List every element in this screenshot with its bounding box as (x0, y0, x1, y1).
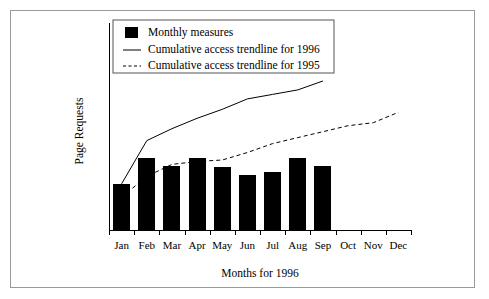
legend-label-trendline-1996: Cumulative access trendline for 1996 (148, 43, 320, 55)
figure-frame: JanFebMarAprMayJunJulAugSepOctNovDec Mon… (10, 10, 475, 288)
x-axis-title: Months for 1996 (221, 267, 299, 279)
bar-jul (264, 172, 281, 230)
x-tick-label-jul: Jul (266, 239, 279, 251)
x-axis-tick-marks (110, 230, 412, 235)
bar-aug (289, 158, 306, 230)
legend-label-trendline-1995: Cumulative access trendline for 1995 (148, 59, 320, 71)
bar-may (214, 167, 231, 230)
bar-jun (239, 175, 256, 230)
x-tick-label-mar: Mar (163, 239, 182, 251)
x-axis-tick-labels: JanFebMarAprMayJunJulAugSepOctNovDec (114, 239, 407, 251)
x-tick-label-feb: Feb (139, 239, 156, 251)
y-axis-title: Page Requests (73, 97, 86, 164)
x-tick-label-jun: Jun (240, 239, 256, 251)
x-tick-label-nov: Nov (364, 239, 383, 251)
x-tick-label-sep: Sep (315, 239, 332, 251)
bar-apr (189, 158, 206, 230)
bar-jan (113, 184, 130, 230)
bar-feb (138, 158, 155, 230)
x-tick-label-jan: Jan (114, 239, 129, 251)
legend-label-monthly-measures: Monthly measures (148, 26, 234, 39)
bar-mar (163, 166, 180, 230)
chart-canvas: JanFebMarAprMayJunJulAugSepOctNovDec Mon… (11, 11, 474, 287)
x-tick-label-dec: Dec (390, 239, 408, 251)
x-tick-label-aug: Aug (288, 239, 307, 251)
bar-sep (314, 166, 331, 230)
x-tick-label-may: May (212, 239, 233, 251)
x-tick-label-apr: Apr (189, 239, 206, 251)
legend-marker-monthly-measures (125, 27, 138, 38)
x-tick-label-oct: Oct (340, 239, 356, 251)
bar-series (113, 158, 331, 230)
legend: Monthly measures Cumulative access trend… (113, 20, 334, 73)
